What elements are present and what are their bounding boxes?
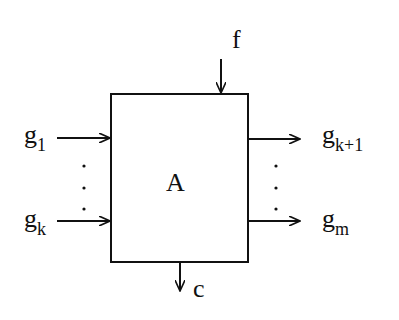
label-gm: gm	[322, 206, 349, 232]
label-f: f	[232, 27, 241, 53]
label-c: c	[193, 276, 205, 302]
label-g1: g1	[24, 122, 46, 148]
dots-right	[274, 164, 277, 210]
label-gk1: gk+1	[322, 122, 363, 148]
dots-left	[82, 164, 85, 210]
label-a: A	[166, 170, 185, 196]
label-gk: gk	[24, 206, 46, 232]
diagram-canvas	[0, 0, 399, 320]
